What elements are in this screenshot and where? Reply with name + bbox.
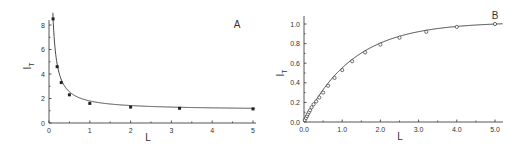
data-point: [379, 43, 382, 46]
y-tick-label: 0.4: [290, 79, 300, 86]
chart-a: 012345 02468 L IT A: [22, 13, 256, 143]
x-tick-label: 4.0: [452, 126, 462, 133]
figure: 012345 02468 L IT A 0.01.02.03.04.05.0 0…: [0, 0, 526, 147]
chart-a-panel-label: A: [234, 19, 241, 30]
y-tick-label: 6: [41, 46, 45, 53]
data-point: [310, 106, 313, 109]
chart-b-x-label: L: [397, 131, 403, 142]
data-point: [322, 91, 325, 94]
y-tick-label: 2: [41, 95, 45, 102]
chart-b-y-label: IT: [275, 69, 288, 77]
chart-b: 0.01.02.03.04.05.0 0.00.20.40.60.81.0 L …: [275, 10, 503, 142]
data-point: [60, 81, 63, 84]
data-point: [129, 106, 132, 109]
chart-a-fit-curve: [52, 13, 254, 109]
y-tick-label: 8: [41, 22, 45, 29]
chart-a-data-points: [52, 17, 255, 110]
chart-a-y-label: IT: [22, 62, 35, 70]
y-tick-label: 0: [41, 120, 45, 127]
y-tick-label: 1.0: [290, 21, 300, 28]
data-point: [52, 17, 55, 20]
chart-a-y-ticks: 02468: [41, 22, 51, 127]
data-point: [315, 100, 318, 103]
data-point: [318, 96, 321, 99]
data-point: [312, 103, 315, 106]
x-tick-label: 1.0: [337, 126, 347, 133]
data-point: [178, 107, 181, 110]
data-point: [398, 36, 401, 39]
chart-b-data-points: [303, 22, 496, 121]
data-point: [364, 51, 367, 54]
y-tick-label: 0.8: [290, 40, 300, 47]
data-point: [425, 30, 428, 33]
y-tick-label: 0.2: [290, 99, 300, 106]
x-tick-label: 2.0: [376, 126, 386, 133]
y-tick-label: 4: [41, 71, 45, 78]
chart-b-fit-curve: [304, 24, 503, 122]
data-point: [341, 68, 344, 71]
data-point: [88, 102, 91, 105]
data-point: [333, 76, 336, 79]
data-point: [68, 93, 71, 96]
x-tick-label: 0.0: [299, 126, 309, 133]
data-point: [455, 25, 458, 28]
data-point: [56, 65, 59, 68]
x-tick-label: 5.0: [490, 126, 500, 133]
x-tick-label: 3: [169, 127, 173, 134]
y-tick-label: 0.0: [290, 119, 300, 126]
chart-b-panel-label: B: [492, 10, 499, 21]
data-point: [252, 107, 255, 110]
y-tick-label: 0.6: [290, 60, 300, 67]
data-point: [326, 84, 329, 87]
chart-a-x-label: L: [145, 132, 151, 143]
x-tick-label: 4: [210, 127, 214, 134]
x-tick-label: 0: [47, 127, 51, 134]
x-tick-label: 1: [88, 127, 92, 134]
data-point: [351, 60, 354, 63]
x-tick-label: 5: [251, 127, 255, 134]
data-point: [493, 22, 496, 25]
x-tick-label: 3.0: [414, 126, 424, 133]
x-tick-label: 2: [129, 127, 133, 134]
chart-a-x-ticks: 012345: [47, 121, 255, 135]
